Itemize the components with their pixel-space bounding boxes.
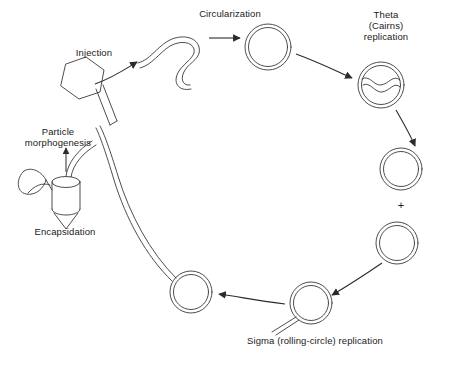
daughter-circle-lower-icon	[376, 222, 418, 264]
diagram-canvas: Injection Circularization Theta (Cairns)…	[0, 0, 465, 367]
theta-intermediate-icon	[358, 62, 404, 108]
arrow-injection	[95, 62, 137, 84]
label-circularization: Circularization	[180, 8, 280, 19]
circular-dna-icon	[245, 24, 291, 70]
prohead-icon	[18, 141, 96, 229]
arrow-theta-to-daughter	[396, 110, 415, 146]
label-plus-sign: +	[386, 200, 416, 211]
label-encapsidation: Encapsidation	[16, 226, 114, 237]
daughter-circle-upper-icon	[380, 148, 422, 190]
label-injection: Injection	[59, 47, 129, 58]
rolling-circle-right-icon	[272, 282, 332, 335]
arrow-sigma	[219, 294, 285, 304]
arrow-theta	[296, 54, 352, 78]
label-particle-morphogenesis: Particle morphogenesis	[14, 126, 102, 148]
rolling-circle-left-icon	[96, 126, 212, 313]
label-sigma-replication: Sigma (rolling-circle) replication	[222, 335, 408, 346]
phage-particle-icon	[61, 57, 117, 125]
linear-dna-icon	[138, 37, 199, 90]
arrow-daughter-to-rolling	[332, 263, 382, 295]
label-theta-replication: Theta (Cairns) replication	[348, 9, 424, 42]
